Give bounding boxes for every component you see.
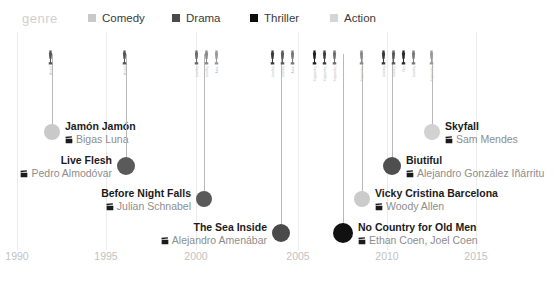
award-label: Film [402, 66, 406, 72]
film-entry[interactable]: BiutifulAlejandro González Iñárritu [406, 154, 544, 180]
award-trophy-icon [428, 50, 435, 65]
film-director: Alejandro Amenábar [172, 234, 267, 247]
legend-swatch-icon [172, 14, 180, 22]
film-director-row: Alejandro González Iñárritu [406, 167, 544, 180]
film-marker[interactable] [383, 157, 401, 175]
award-trophy-icon [331, 50, 338, 65]
award-group: LeadingLeadingActor [268, 50, 297, 77]
award-group: Award [120, 50, 129, 75]
legend-item-comedy[interactable]: Comedy [88, 12, 145, 24]
award-trophy-icon [121, 50, 128, 65]
award-label: Supporting [333, 66, 337, 81]
award-item[interactable]: Supporting [427, 50, 436, 81]
film-stem [343, 54, 344, 233]
award-trophy-icon [400, 50, 407, 65]
award-trophy-icon [380, 50, 387, 65]
time-axis: 199019952000200520102015 [0, 250, 554, 270]
award-item[interactable]: Supporting [310, 50, 319, 81]
award-item[interactable]: Award [46, 50, 55, 75]
film-marker[interactable] [333, 223, 353, 243]
film-entry[interactable]: SkyfallSam Mendes [445, 120, 518, 146]
legend-swatch-icon [330, 14, 338, 22]
award-item[interactable]: Leading [192, 50, 201, 77]
award-item[interactable]: Leading [202, 50, 211, 77]
legend-item-thriller[interactable]: Thriller [250, 12, 299, 24]
film-entry[interactable]: Vicky Cristina BarcelonaWoody Allen [375, 187, 498, 213]
film-entry[interactable]: Before Night FallsJulian Schnabel [101, 187, 191, 213]
film-marker[interactable] [354, 191, 370, 207]
axis-tick-label: 1990 [5, 250, 28, 262]
gridline-1990 [17, 32, 18, 250]
film-marker[interactable] [44, 124, 60, 140]
film-stem [281, 54, 282, 233]
award-item[interactable]: Supporting [320, 50, 329, 81]
award-item[interactable]: Supporting [357, 50, 366, 81]
award-label: Award [49, 66, 53, 75]
film-director-row: Ethan Coen, Joel Coen [358, 234, 478, 247]
clapperboard-icon [106, 203, 114, 211]
film-title: Live Flesh [20, 154, 112, 167]
award-item[interactable]: Actor [288, 50, 297, 73]
award-label: Actor [291, 66, 295, 73]
award-label: Leading [271, 66, 275, 77]
award-trophy-icon [390, 50, 397, 65]
film-title: The Sea Inside [161, 221, 267, 234]
legend-title: genre [22, 11, 58, 26]
award-label: Supporting [430, 66, 434, 81]
award-item[interactable]: Leading [409, 50, 418, 77]
award-item[interactable]: Leading [379, 50, 388, 77]
award-group: Award [46, 50, 55, 75]
clapperboard-icon [161, 237, 169, 245]
award-label: Supporting [323, 66, 327, 81]
axis-tick-label: 1995 [94, 250, 117, 262]
award-trophy-icon [358, 50, 365, 65]
clapperboard-icon [65, 136, 73, 144]
film-director-row: Sam Mendes [445, 133, 518, 146]
award-item[interactable]: Leading [389, 50, 398, 77]
film-title: Biutiful [406, 154, 544, 167]
film-marker[interactable] [196, 191, 212, 207]
film-entry[interactable]: Live FleshPedro Almodóvar [20, 154, 112, 180]
award-group: LeadingLeadingActor [192, 50, 221, 77]
legend-item-action[interactable]: Action [330, 12, 376, 24]
clapperboard-icon [406, 170, 414, 178]
award-trophy-icon [47, 50, 54, 65]
award-trophy-icon [410, 50, 417, 65]
film-director-row: Pedro Almodóvar [20, 167, 112, 180]
film-director: Ethan Coen, Joel Coen [369, 234, 478, 247]
award-item[interactable]: Film [399, 50, 408, 72]
award-trophy-icon [321, 50, 328, 65]
award-trophy-icon [279, 50, 286, 65]
award-group: SupportingSupportingSupporting [310, 50, 339, 81]
film-entry[interactable]: No Country for Old MenEthan Coen, Joel C… [358, 221, 478, 247]
award-item[interactable]: Award [120, 50, 129, 75]
timeline-infographic: genre ComedyDramaThrillerAction 19901995… [0, 0, 554, 284]
film-entry[interactable]: The Sea InsideAlejandro Amenábar [161, 221, 267, 247]
award-group: Supporting [427, 50, 436, 81]
legend-swatch-icon [88, 14, 96, 22]
film-director-row: Woody Allen [375, 200, 498, 213]
award-label: Leading [195, 66, 199, 77]
legend-item-drama[interactable]: Drama [172, 12, 221, 24]
film-director: Alejandro González Iñárritu [417, 167, 544, 180]
film-marker[interactable] [117, 157, 135, 175]
award-label: Award [123, 66, 127, 75]
axis-tick-label: 2010 [375, 250, 398, 262]
gridline-2005 [298, 32, 299, 250]
legend-swatch-icon [250, 14, 258, 22]
film-title: Before Night Falls [101, 187, 191, 200]
film-director: Sam Mendes [456, 133, 518, 146]
film-director: Woody Allen [386, 200, 444, 213]
legend-item-label: Thriller [264, 12, 299, 24]
award-trophy-icon [289, 50, 296, 65]
legend-item-label: Action [344, 12, 376, 24]
award-item[interactable]: Supporting [330, 50, 339, 81]
film-marker[interactable] [272, 224, 290, 242]
award-label: Leading [392, 66, 396, 77]
film-marker[interactable] [424, 124, 440, 140]
award-item[interactable]: Leading [268, 50, 277, 77]
award-item[interactable]: Actor [212, 50, 221, 73]
award-item[interactable]: Leading [278, 50, 287, 77]
award-group: Supporting [357, 50, 366, 81]
award-group: LeadingLeadingFilmLeading [379, 50, 418, 77]
